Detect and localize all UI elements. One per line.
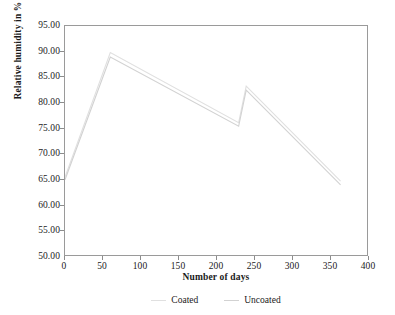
x-axis-tick-label: 350 [310, 261, 350, 272]
x-axis-tick-mark [254, 256, 255, 260]
series-lines [65, 26, 367, 255]
x-axis-tick-label: 100 [120, 261, 160, 272]
x-axis-tick-mark [292, 256, 293, 260]
x-axis-tick-mark [330, 256, 331, 260]
x-axis-tick-label: 200 [196, 261, 236, 272]
legend-label: Uncoated [244, 294, 280, 306]
x-axis-tick-label: 0 [44, 261, 84, 272]
series-line-uncoated [65, 57, 341, 185]
y-axis-tick-label: 65.00 [2, 174, 60, 184]
y-axis-tick-label: 60.00 [2, 200, 60, 210]
chart-figure: Relative humidity in % 50.0055.0060.0065… [0, 0, 395, 315]
x-axis-tick-label: 150 [158, 261, 198, 272]
legend-entry-uncoated[interactable]: Uncoated [224, 294, 280, 306]
x-axis-title: Number of days [64, 272, 368, 282]
legend-line-swatch [224, 300, 239, 301]
series-line-coated [65, 52, 341, 181]
x-axis-tick-label: 50 [82, 261, 122, 272]
x-axis-tick-label: 250 [234, 261, 274, 272]
y-axis-tick-label: 75.00 [2, 123, 60, 133]
x-axis-tick-mark [140, 256, 141, 260]
legend-entry-coated[interactable]: Coated [151, 294, 198, 306]
x-axis-tick-mark [64, 256, 65, 260]
legend-line-swatch [151, 300, 166, 301]
y-axis-tick-label: 95.00 [2, 20, 60, 30]
legend-label: Coated [171, 294, 198, 306]
chart-legend: CoatedUncoated [64, 292, 368, 308]
y-axis-tick-label: 70.00 [2, 148, 60, 158]
x-axis-tick-mark [102, 256, 103, 260]
x-axis-tick-mark [216, 256, 217, 260]
x-axis-tick-label: 400 [348, 261, 388, 272]
plot-area [64, 25, 368, 256]
y-axis-tick-label: 80.00 [2, 97, 60, 107]
y-axis-tick-label: 85.00 [2, 71, 60, 81]
y-axis-tick-label: 90.00 [2, 46, 60, 56]
x-axis-tick-mark [178, 256, 179, 260]
y-axis-tick-label: 55.00 [2, 225, 60, 235]
x-axis-tick-mark [368, 256, 369, 260]
x-axis-tick-label: 300 [272, 261, 312, 272]
